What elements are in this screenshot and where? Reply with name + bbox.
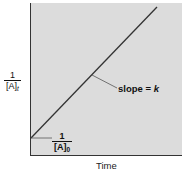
data-line bbox=[31, 7, 157, 138]
slope-leader-line bbox=[92, 75, 117, 88]
slope-label: slope = k bbox=[118, 83, 159, 94]
y-axis-label: 1 [A]t bbox=[4, 70, 21, 94]
x-axis-label: Time bbox=[96, 160, 117, 171]
intercept-label: 1 [A]0 bbox=[52, 131, 72, 155]
